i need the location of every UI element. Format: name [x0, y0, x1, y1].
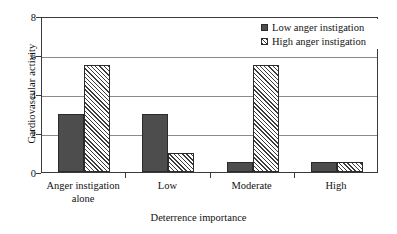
- x-tick-mark: [210, 173, 211, 178]
- legend-label: Low anger instigation: [272, 22, 364, 33]
- y-tick-mark: [36, 173, 41, 174]
- legend-swatch-icon: [261, 38, 268, 45]
- bar-high-0: [84, 65, 110, 172]
- bar-low-2: [227, 162, 253, 172]
- x-axis-title: Deterrence importance: [0, 212, 397, 223]
- legend-item-0: Low anger instigation: [261, 21, 378, 33]
- x-category-label-3: High: [294, 180, 378, 193]
- x-cat-label-line: High: [294, 180, 378, 193]
- y-tick-label: 6: [6, 51, 36, 62]
- y-tick-label: 4: [6, 90, 36, 101]
- bar-high-2: [253, 65, 279, 172]
- x-tick-mark: [125, 173, 126, 178]
- bar-chart-figure: Cardiovascular activity 02468 Anger inst…: [0, 0, 397, 234]
- x-cat-label-line: Low: [125, 180, 209, 193]
- x-cat-label-line: Moderate: [210, 180, 294, 193]
- y-tick-label: 2: [6, 129, 36, 140]
- chart-legend: Low anger instigationHigh anger instigat…: [258, 19, 380, 49]
- bar-high-3: [337, 162, 363, 172]
- bar-high-1: [168, 153, 194, 173]
- bar-low-0: [58, 114, 84, 173]
- x-cat-label-line: alone: [41, 193, 125, 206]
- x-cat-label-line: Anger instigation: [41, 180, 125, 193]
- legend-item-1: High anger instigation: [261, 35, 378, 47]
- y-tick-label: 0: [6, 168, 36, 179]
- y-tick-label: 8: [6, 12, 36, 23]
- legend-swatch-icon: [261, 24, 268, 31]
- legend-label: High anger instigation: [272, 36, 366, 47]
- bar-low-3: [311, 162, 337, 172]
- bar-low-1: [142, 114, 168, 173]
- gridline: [42, 57, 377, 58]
- x-category-label-0: Anger instigationalone: [41, 180, 125, 205]
- x-category-label-2: Moderate: [210, 180, 294, 193]
- x-category-label-1: Low: [125, 180, 209, 193]
- x-tick-mark: [294, 173, 295, 178]
